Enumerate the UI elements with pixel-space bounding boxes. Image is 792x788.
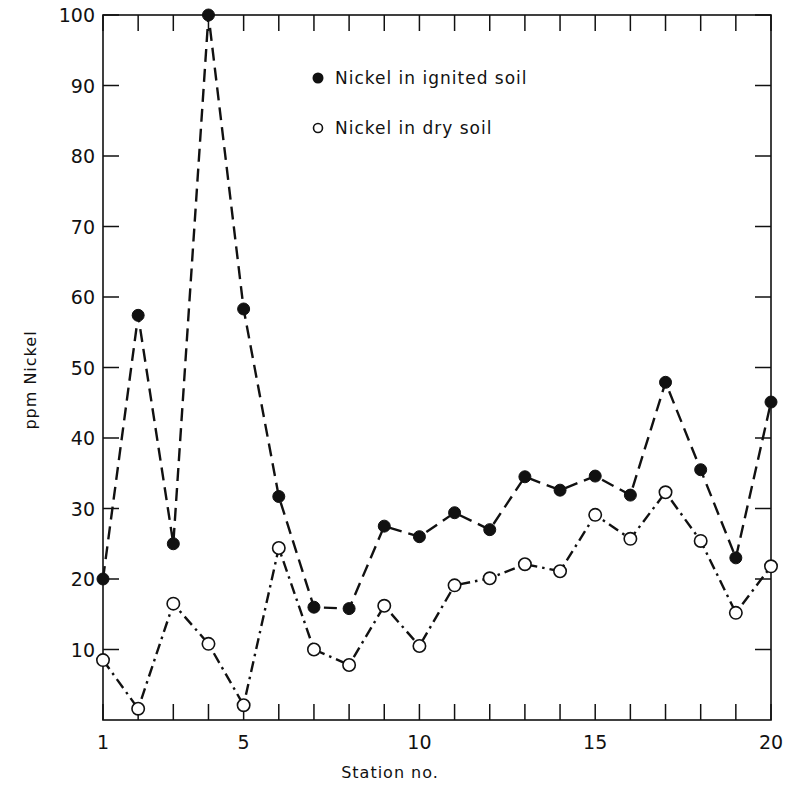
- x-tick-label: 15: [583, 731, 607, 753]
- data-point-filled: [589, 470, 601, 482]
- x-axis-title: Station no.: [341, 763, 439, 782]
- data-point-open: [730, 607, 742, 619]
- x-tick-label: 20: [759, 731, 783, 753]
- data-point-open: [554, 565, 566, 577]
- data-point-filled: [413, 531, 425, 543]
- data-point-filled: [765, 396, 777, 408]
- data-point-open: [343, 659, 355, 671]
- y-tick-label: 70: [71, 216, 95, 238]
- data-point-open: [413, 640, 425, 652]
- data-point-open: [659, 486, 671, 498]
- legend-label-ignited: Nickel in ignited soil: [335, 68, 528, 88]
- data-point-open: [273, 542, 285, 554]
- data-point-open: [519, 558, 531, 570]
- data-point-open: [484, 572, 496, 584]
- data-point-open: [378, 600, 390, 612]
- x-tick-label: 10: [407, 731, 431, 753]
- y-tick-label: 40: [71, 427, 95, 449]
- legend-label-dry: Nickel in dry soil: [335, 118, 492, 138]
- data-point-filled: [238, 303, 250, 315]
- y-tick-label: 50: [71, 357, 95, 379]
- data-point-filled: [167, 538, 179, 550]
- y-tick-label: 30: [71, 498, 95, 520]
- data-point-filled: [97, 573, 109, 585]
- data-point-filled: [660, 376, 672, 388]
- data-point-open: [765, 560, 777, 572]
- legend: Nickel in ignited soil Nickel in dry soi…: [313, 68, 528, 138]
- series-line-0: [103, 15, 771, 609]
- y-axis-title: ppm Nickel: [21, 330, 40, 429]
- legend-filled-circle-icon: [313, 73, 324, 84]
- data-point-filled: [695, 464, 707, 476]
- data-point-open: [97, 654, 109, 666]
- y-tick-label: 80: [71, 145, 95, 167]
- legend-open-circle-icon: [314, 124, 323, 133]
- data-point-filled: [202, 9, 214, 21]
- series-layer: [97, 9, 777, 715]
- data-point-filled: [484, 524, 496, 536]
- data-point-open: [624, 533, 636, 545]
- data-point-open: [132, 703, 144, 715]
- data-point-open: [308, 643, 320, 655]
- x-tick-label: 5: [238, 731, 250, 753]
- x-tick-label: 1: [97, 731, 109, 753]
- y-tick-label: 60: [71, 286, 95, 308]
- y-axis-ticks: 102030405060708090100: [59, 4, 771, 661]
- data-point-open: [202, 638, 214, 650]
- data-point-filled: [343, 603, 355, 615]
- data-point-filled: [519, 471, 531, 483]
- y-tick-label: 20: [71, 568, 95, 590]
- data-point-filled: [273, 491, 285, 503]
- data-point-open: [448, 579, 460, 591]
- y-tick-label: 90: [71, 75, 95, 97]
- y-tick-label: 100: [59, 4, 95, 26]
- data-point-filled: [308, 601, 320, 613]
- y-tick-label: 10: [71, 639, 95, 661]
- data-point-open: [694, 535, 706, 547]
- data-point-open: [237, 699, 249, 711]
- data-point-filled: [378, 520, 390, 532]
- nickel-line-chart: 102030405060708090100 15101520 Nickel in…: [0, 0, 792, 788]
- data-point-open: [589, 509, 601, 521]
- data-point-filled: [624, 489, 636, 501]
- data-point-filled: [449, 507, 461, 519]
- data-point-filled: [132, 309, 144, 321]
- data-point-open: [167, 597, 179, 609]
- data-point-filled: [554, 484, 566, 496]
- data-point-filled: [730, 552, 742, 564]
